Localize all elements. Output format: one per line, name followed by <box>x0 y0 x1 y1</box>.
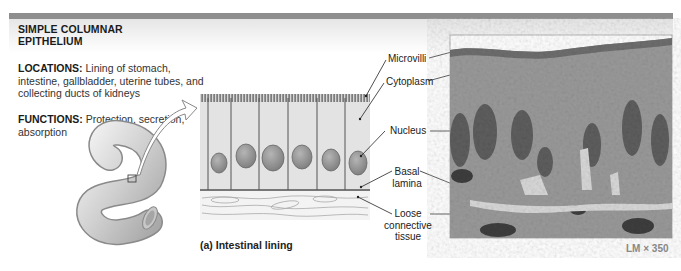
loose-line-3: tissue <box>383 231 433 243</box>
magnification-label: LM × 350 <box>626 243 669 254</box>
label-cytoplasm: Cytoplasm <box>386 76 433 88</box>
label-basal-lamina: Basal lamina <box>392 166 422 189</box>
basal-line-2: lamina <box>392 178 422 190</box>
loose-line-1: Loose <box>383 208 433 220</box>
label-microvilli: Microvilli <box>388 53 426 65</box>
label-loose-connective-tissue: Loose connective tissue <box>383 208 433 243</box>
loose-line-2: connective <box>383 220 433 232</box>
micrograph-image <box>450 35 672 238</box>
illustration-canvas <box>0 0 681 271</box>
label-nucleus: Nucleus <box>390 125 426 137</box>
figure-caption: (a) Intestinal lining <box>200 239 293 251</box>
columnar-epithelium-diagram <box>200 94 370 220</box>
basal-line-1: Basal <box>392 166 422 178</box>
